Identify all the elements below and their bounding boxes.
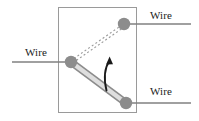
label-wire-top-right: Wire xyxy=(150,9,172,21)
label-wire-bottom-right: Wire xyxy=(150,85,172,97)
contact-top-node xyxy=(118,18,130,30)
label-wire-left: Wire xyxy=(25,46,47,58)
rotation-arrow-icon xyxy=(105,57,113,91)
rotating-bar xyxy=(71,62,126,103)
circuit-diagram: Wire Wire Wire xyxy=(0,0,199,121)
bar-dashed-previous-position xyxy=(69,22,127,66)
pivot-node xyxy=(65,56,77,68)
contact-bottom-node xyxy=(120,97,132,109)
